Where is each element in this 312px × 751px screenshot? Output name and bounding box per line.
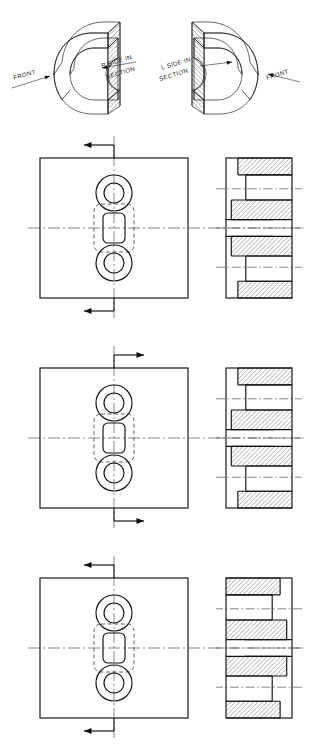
view-set-2-top-arrow-head — [137, 352, 145, 358]
pictorial-right-front-face — [204, 33, 258, 114]
view-set-1-bottom-arrow-head — [84, 308, 92, 314]
pictorial-row: FRONTR SIDE INSECTIONL SIDE INSECTIONFRO… — [12, 22, 300, 114]
view-set-2-hatch-top-outer-flange — [238, 368, 292, 385]
view-set-2-hatch-bottom-outer-flange — [238, 491, 292, 508]
view-set-1-hatch-top-outer-flange — [238, 158, 292, 175]
view-set-2-hatch-bottom-web — [231, 446, 292, 466]
view-set-2-hatch-top-web — [231, 410, 292, 430]
technical-drawing-canvas: FRONTR SIDE INSECTIONL SIDE INSECTIONFRO… — [0, 0, 312, 751]
pictorial-right-labels: L SIDE INSECTIONFRONT — [158, 55, 289, 82]
view-set-3-hatch-bottom-outer-flange — [226, 701, 280, 718]
view-set-3-top-arrow-head — [84, 562, 92, 568]
left-front-leader-head — [44, 76, 50, 80]
right-lside-leader-head — [227, 61, 232, 65]
view-set-3-hatch-bottom-web — [226, 656, 287, 676]
view-set-2-bottom-arrow-head — [137, 518, 145, 524]
pictorial-left-front-face — [54, 33, 108, 114]
pictorial-right-body — [192, 22, 258, 114]
view-set-3-hatch-top-web — [226, 620, 287, 640]
view-set-1-hatch-bottom-outer-flange — [238, 281, 292, 298]
pictorial-left: FRONTR SIDE INSECTION — [12, 22, 136, 114]
drawing-sheet: FRONTR SIDE INSECTIONL SIDE INSECTIONFRO… — [0, 0, 312, 751]
view-set-1-top-arrow-head — [84, 142, 92, 148]
view-set-3 — [28, 556, 304, 740]
view-set-2 — [28, 346, 304, 530]
front-label: FRONT — [12, 68, 36, 81]
view-set-3-bottom-arrow-head — [84, 728, 92, 734]
view-set-1-hatch-bottom-web — [231, 236, 292, 256]
pictorial-right: L SIDE INSECTIONFRONT — [158, 22, 289, 114]
pictorial-left-bottom-hint — [54, 74, 70, 100]
view-set-1-hatch-top-web — [231, 200, 292, 220]
pictorial-left-body — [54, 22, 120, 114]
view-set-1 — [28, 136, 304, 320]
pictorial-right-bottom-hint — [242, 74, 258, 100]
view-set-3-hatch-top-outer-flange — [226, 578, 280, 595]
